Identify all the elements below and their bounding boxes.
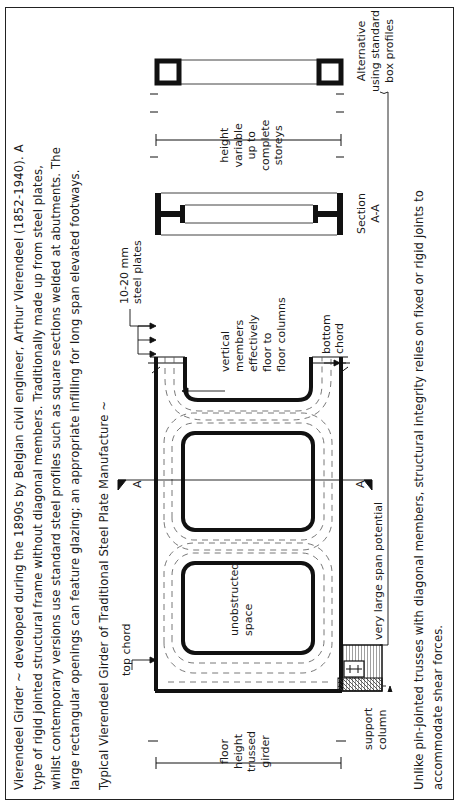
footer-line: Unlike pin-jointed trusses with diagonal…	[410, 190, 429, 790]
label-steel-plates: 10-20 mm steel plates	[118, 240, 144, 304]
label-height-variable: height variable up to complete storeys	[218, 120, 286, 171]
label-very-large-span: very large span potential	[372, 502, 385, 640]
label-vertical-members: vertical members effectively floor to fl…	[219, 297, 289, 372]
label-unobstructed-space: unobstructed space	[228, 563, 256, 636]
box-profile-drawing	[157, 60, 341, 84]
section-marker-top: A	[131, 480, 144, 488]
support-column	[338, 645, 382, 691]
label-top-chord: top chord	[120, 623, 133, 676]
label-alternative: Alternative using standard box profiles	[355, 10, 397, 92]
section-marker-bottom: A	[354, 480, 367, 488]
label-support-column: support column	[362, 708, 390, 750]
girder-body	[148, 357, 350, 691]
section-aa-drawing	[155, 193, 343, 235]
rotated-page: Vierendeel Girder ~ developed during the…	[0, 0, 460, 804]
label-bottom-chord: bottom chord	[320, 314, 346, 354]
label-section-aa: Section A-A	[355, 193, 383, 234]
footer-line: accommodate shear forces.	[429, 625, 448, 790]
label-floor-height: floor height trussed girder	[218, 731, 272, 772]
